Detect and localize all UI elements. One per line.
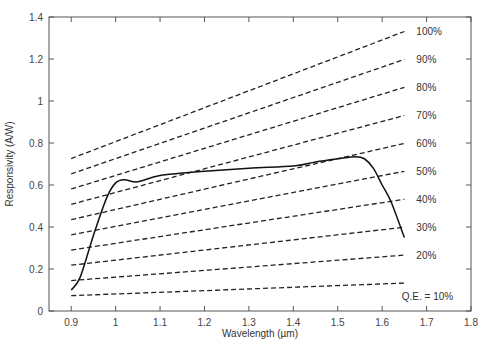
qe-line-label: 70%: [416, 110, 436, 121]
qe-line: [71, 283, 404, 296]
y-tick-label: 1: [37, 96, 43, 107]
x-tick-label: 0.9: [64, 317, 78, 328]
x-tick-label: 1.4: [286, 317, 300, 328]
qe-line: [71, 143, 404, 219]
x-tick-label: 1.6: [375, 317, 389, 328]
qe-line-label: Q.E. = 10%: [402, 291, 454, 302]
qe-line-label: 100%: [416, 26, 442, 37]
x-tick-label: 1.8: [464, 317, 478, 328]
x-tick-label: 1.5: [331, 317, 345, 328]
y-tick-label: 1.2: [29, 54, 43, 65]
qe-line-label: 80%: [416, 82, 436, 93]
qe-line: [71, 31, 404, 158]
quantum-efficiency-lines: 100%90%80%70%60%50%40%30%20%Q.E. = 10%: [71, 26, 453, 302]
x-tick-label: 1.1: [153, 317, 167, 328]
y-axis-ticks: 00.20.40.60.811.21.4: [29, 12, 471, 317]
y-tick-label: 0.8: [29, 138, 43, 149]
qe-line: [71, 87, 404, 189]
x-axis-label: Wavelength (µm): [222, 328, 298, 339]
qe-line-label: 90%: [416, 54, 436, 65]
responsivity-chart: 0.911.11.21.31.41.51.61.71.8 00.20.40.60…: [0, 0, 488, 350]
qe-line: [71, 115, 404, 204]
qe-line-label: 60%: [416, 138, 436, 149]
y-axis-label: Responsivity (A/W): [4, 121, 15, 206]
y-tick-label: 1.4: [29, 12, 43, 23]
qe-line-label: 40%: [416, 194, 436, 205]
y-tick-label: 0: [37, 306, 43, 317]
x-tick-label: 1.7: [420, 317, 434, 328]
x-tick-label: 1.2: [198, 317, 212, 328]
qe-line-label: 50%: [416, 166, 436, 177]
x-tick-label: 1: [113, 317, 119, 328]
qe-line-label: 20%: [416, 250, 436, 261]
y-tick-label: 0.2: [29, 264, 43, 275]
qe-line-label: 30%: [416, 222, 436, 233]
y-tick-label: 0.4: [29, 222, 43, 233]
y-tick-label: 0.6: [29, 180, 43, 191]
x-tick-label: 1.3: [242, 317, 256, 328]
plot-frame: [49, 17, 471, 311]
responsivity-series-line: [71, 157, 404, 290]
responsivity-curve: [71, 157, 404, 290]
